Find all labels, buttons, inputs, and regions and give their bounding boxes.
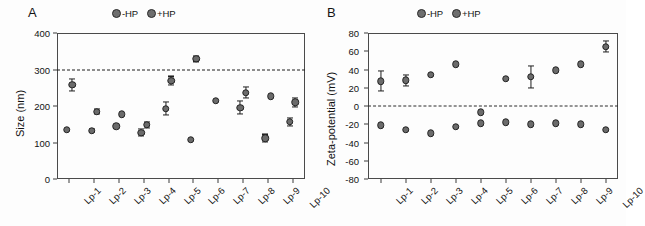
y-tick-mark [364, 160, 368, 161]
data-point [187, 136, 195, 144]
data-point [143, 121, 151, 129]
panel-b-legend: -HP +HP [417, 8, 481, 19]
y-tick-label: 0 [24, 174, 50, 185]
legend-entry-minus-hp: -HP [417, 8, 443, 19]
legend-entry-plus-hp: +HP [452, 8, 480, 19]
data-point [242, 89, 250, 97]
y-tick-mark [364, 179, 368, 180]
x-tick-label: Lp-9 [280, 185, 301, 206]
y-tick-label: 60 [333, 46, 359, 57]
data-point [93, 108, 101, 116]
data-point [168, 77, 176, 85]
legend-label-plus-hp: +HP [462, 8, 480, 19]
error-bar-cap [243, 87, 249, 88]
x-tick-label: Lp-3 [132, 185, 153, 206]
x-tick-label: Lp-9 [593, 185, 614, 206]
legend-label-minus-hp: -HP [427, 8, 443, 19]
data-point [192, 55, 200, 63]
x-tick-mark [119, 179, 120, 183]
y-tick-label: 100 [24, 137, 50, 148]
x-tick-label: Lp-1 [393, 185, 414, 206]
x-tick-label: Lp-7 [543, 185, 564, 206]
y-tick-label: -80 [333, 174, 359, 185]
data-point [452, 60, 460, 68]
data-point [602, 43, 610, 51]
x-tick-mark [480, 179, 481, 183]
panel-a-legend: -HP +HP [112, 8, 176, 19]
x-tick-mark [243, 179, 244, 183]
y-tick-label: -60 [333, 155, 359, 166]
x-tick-label: Lp-6 [518, 185, 539, 206]
data-point [527, 121, 535, 129]
y-tick-mark [53, 179, 57, 180]
panel-b: B -HP +HP Zeta-potential (mV) -80-60-40-… [313, 0, 626, 226]
y-tick-label: -20 [333, 119, 359, 130]
reference-line [368, 106, 618, 107]
data-point [118, 111, 126, 119]
y-tick-mark [53, 33, 57, 34]
x-tick-label: Lp-6 [206, 185, 227, 206]
x-tick-mark [530, 179, 531, 183]
error-bar-cap [603, 41, 609, 42]
y-tick-mark [364, 33, 368, 34]
x-tick-mark [267, 179, 268, 183]
filled-circle-marker-icon [417, 9, 426, 18]
x-tick-label: Lp-4 [156, 185, 177, 206]
data-point [402, 126, 410, 134]
y-tick-label: 20 [333, 82, 359, 93]
data-point [292, 99, 300, 107]
x-tick-label: Lp-8 [568, 185, 589, 206]
x-tick-mark [505, 179, 506, 183]
x-tick-label: Lp-1 [82, 185, 103, 206]
error-bar-cap [69, 78, 75, 79]
y-tick-label: 80 [333, 28, 359, 39]
data-point [113, 122, 121, 130]
legend-label-plus-hp: +HP [157, 8, 175, 19]
error-bar-cap [403, 74, 409, 75]
x-tick-label: Lp-5 [493, 185, 514, 206]
x-tick-mark [380, 179, 381, 183]
y-tick-mark [53, 142, 57, 143]
data-point [261, 134, 269, 142]
y-tick-mark [364, 124, 368, 125]
data-point [477, 109, 485, 117]
x-tick-mark [143, 179, 144, 183]
error-bar-cap [69, 90, 75, 91]
data-point [427, 71, 435, 79]
x-tick-label: Lp-7 [231, 185, 252, 206]
data-point [377, 121, 385, 129]
legend-entry-minus-hp: -HP [112, 8, 138, 19]
data-point [212, 97, 220, 105]
filled-circle-marker-icon [452, 9, 461, 18]
data-point [502, 119, 510, 127]
y-tick-mark [364, 87, 368, 88]
x-tick-label: Lp-3 [443, 185, 464, 206]
error-bar-cap [163, 101, 169, 102]
y-tick-label: -40 [333, 137, 359, 148]
panel-a-y-axis-title: Size (nm) [14, 90, 26, 137]
data-point [577, 121, 585, 129]
x-tick-mark [430, 179, 431, 183]
data-point [552, 120, 560, 128]
x-tick-mark [218, 179, 219, 183]
x-tick-mark [580, 179, 581, 183]
x-tick-mark [193, 179, 194, 183]
y-tick-label: 0 [333, 101, 359, 112]
y-tick-mark [364, 69, 368, 70]
legend-entry-plus-hp: +HP [147, 8, 175, 19]
x-tick-mark [405, 179, 406, 183]
data-point [137, 129, 145, 137]
error-bar-cap [168, 85, 174, 86]
data-point [88, 127, 96, 135]
data-point [502, 75, 510, 83]
data-point [552, 67, 560, 75]
x-tick-mark [292, 179, 293, 183]
filled-circle-marker-icon [112, 9, 121, 18]
data-point [237, 104, 245, 112]
error-bar-cap [237, 114, 243, 115]
x-tick-label: Lp-5 [181, 185, 202, 206]
data-point [602, 126, 610, 134]
data-point [267, 92, 275, 100]
panel-a-letter: A [28, 5, 37, 20]
